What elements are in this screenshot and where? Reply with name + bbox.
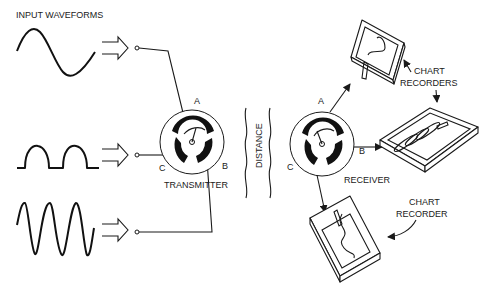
receiver [290, 112, 354, 176]
receiver-terminal-c: C [287, 162, 294, 172]
terminal-b-input [135, 230, 139, 234]
transmitter [160, 110, 224, 174]
chart-recorder-label-line1: CHART [409, 197, 440, 207]
chart-recorders-label-line1: CHART [414, 66, 445, 76]
distance-label: DISTANCE [254, 123, 264, 168]
chart-recorder-b [380, 108, 478, 172]
sine-waveform [17, 29, 95, 76]
input-waveforms-label: INPUT WAVEFORMS [16, 10, 103, 20]
chart-recorders-pointer-up [404, 60, 411, 72]
transmitter-terminal-a: A [194, 96, 200, 106]
rectified-waveform [17, 146, 99, 168]
chart-recorder-c [310, 196, 380, 282]
hf-sine-waveform [17, 203, 94, 255]
transmitter-terminal-c: C [159, 163, 166, 173]
arrow-receiver-c [317, 175, 325, 212]
terminal-c-input [135, 153, 139, 157]
transmitter-label: TRANSMITTER [164, 180, 228, 190]
chart-recorder-pointer [388, 220, 416, 237]
terminal-a-input [135, 46, 139, 50]
wire-a [139, 48, 185, 121]
chart-recorder-label-line2: RECORDER [396, 209, 448, 219]
chart-recorders-pointer-down [436, 90, 437, 102]
chart-recorder-a [351, 20, 405, 84]
telemetry-diagram: INPUT WAVEFORMS A B C TRANSMITTER DISTAN… [0, 0, 484, 293]
arrow-receiver-a [330, 84, 350, 112]
receiver-terminal-a: A [318, 96, 324, 106]
receiver-label: RECEIVER [344, 175, 391, 185]
input-arrow-1 [102, 37, 128, 59]
distance-wavy-right [269, 108, 271, 198]
chart-recorders-label-line2: RECORDERS [400, 78, 458, 88]
input-arrow-2 [102, 144, 128, 166]
distance-wavy-left [245, 108, 247, 198]
input-arrow-3 [102, 219, 128, 241]
transmitter-terminal-b: B [222, 161, 228, 171]
